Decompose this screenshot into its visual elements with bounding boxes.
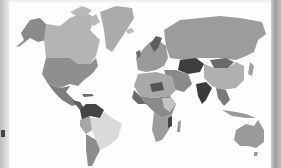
region-greenland[interactable] <box>100 6 134 52</box>
region-india[interactable] <box>196 82 212 104</box>
region-mozambique <box>168 116 172 128</box>
region-southeast-asia[interactable] <box>216 88 230 106</box>
region-alaska[interactable] <box>16 18 46 47</box>
region-australia[interactable] <box>234 120 264 148</box>
region-russia[interactable] <box>164 16 266 60</box>
region-indonesia <box>222 110 256 118</box>
region-kazakhstan[interactable] <box>178 58 204 74</box>
region-iceland <box>126 28 134 34</box>
region-mexico[interactable] <box>48 84 78 106</box>
region-tasmania <box>254 152 258 156</box>
region-caribbean <box>82 94 94 97</box>
world-map <box>0 0 281 168</box>
region-japan <box>248 62 254 76</box>
region-madagascar <box>177 120 181 132</box>
